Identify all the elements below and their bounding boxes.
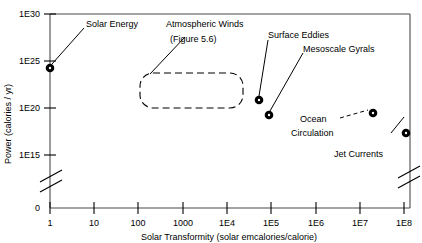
label-ocean-circulation-line2: Circulation [291, 128, 334, 138]
data-point-ocean-circulation [369, 109, 378, 118]
label-atmospheric-winds-figure: (Figure 5.6) [170, 34, 217, 44]
label-atmospheric-winds: Atmospheric Winds [166, 19, 244, 29]
label-jet-currents: Jet Currents [334, 149, 384, 159]
chart-figure: 1E30 1E25 1E20 1E15 0 1 10 100 1000 1E4 … [0, 0, 422, 243]
x-tick-label-10: 10 [89, 218, 99, 228]
x-tick-label-1: 1 [47, 218, 52, 228]
data-point-jet-currents [402, 129, 411, 138]
label-ocean-circulation-line1: Ocean [300, 114, 327, 124]
y-tick-label-1E25: 1E25 [19, 56, 40, 66]
x-tick-label-1E6: 1E6 [308, 218, 324, 228]
x-tick-label-1000: 1000 [173, 218, 193, 228]
y-tick-label-0: 0 [35, 203, 40, 213]
data-point-mesoscale-gyrals [265, 111, 274, 120]
y-axis-title: Power (calories / yr) [3, 84, 13, 164]
y-tick-label-1E20: 1E20 [19, 103, 40, 113]
chart-svg: 1E30 1E25 1E20 1E15 0 1 10 100 1000 1E4 … [0, 0, 422, 243]
y-tick-label-1E15: 1E15 [19, 150, 40, 160]
y-tick-label-1E30: 1E30 [19, 9, 40, 19]
x-tick-label-1E4: 1E4 [219, 218, 235, 228]
label-mesoscale-gyrals: Mesoscale Gyrals [303, 44, 375, 54]
x-tick-label-100: 100 [130, 218, 145, 228]
x-tick-label-1E7: 1E7 [352, 218, 368, 228]
label-surface-eddies: Surface Eddies [268, 30, 330, 40]
x-tick-label-1E8: 1E8 [396, 218, 412, 228]
x-axis-title: Solar Transformity (solar emcalories/cal… [141, 232, 317, 242]
data-point-solar-energy [46, 64, 55, 73]
label-solar-energy: Solar Energy [86, 19, 139, 29]
data-point-surface-eddies [255, 96, 264, 105]
x-tick-label-1E5: 1E5 [263, 218, 279, 228]
